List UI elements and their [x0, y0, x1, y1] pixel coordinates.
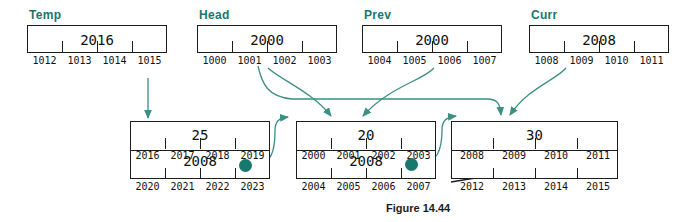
tick-mark [366, 168, 367, 179]
tick-mark [235, 138, 236, 149]
address-label: 2023 [235, 181, 270, 192]
address-label: 2016 [130, 150, 165, 161]
address-label: 1008 [529, 55, 564, 66]
pointer-var-label-head: Head [199, 8, 230, 22]
address-label: 1015 [132, 55, 167, 66]
tick-mark [165, 168, 166, 179]
diagram-content-layer: Temp 2016 1012 1013 1014 1015 Head 2000 … [0, 0, 696, 222]
tick-mark [200, 138, 201, 149]
address-label: 1012 [27, 55, 62, 66]
address-label: 2019 [235, 150, 270, 161]
address-label: 2002 [366, 150, 401, 161]
tick-mark [397, 41, 398, 53]
address-label: 1014 [97, 55, 132, 66]
address-label: 2007 [401, 181, 436, 192]
tick-mark [401, 168, 402, 179]
tick-mark [366, 138, 367, 149]
tick-mark [62, 41, 63, 53]
tick-mark [535, 168, 536, 179]
address-label: 2005 [331, 181, 366, 192]
tick-mark [577, 138, 578, 149]
tick-mark [493, 168, 494, 179]
address-label: 1010 [599, 55, 634, 66]
address-label: 2006 [366, 181, 401, 192]
pointer-var-label-curr: Curr [531, 8, 558, 22]
pointer-var-label-temp: Temp [29, 8, 61, 22]
tick-mark [132, 41, 133, 53]
address-label: 1003 [302, 55, 337, 66]
address-label: 1007 [467, 55, 502, 66]
address-label: 2011 [577, 150, 619, 161]
address-label: 2004 [296, 181, 331, 192]
address-label: 2018 [200, 150, 235, 161]
address-label: 2012 [451, 181, 493, 192]
address-label: 2020 [130, 181, 165, 192]
address-label: 1000 [197, 55, 232, 66]
tick-mark [493, 138, 494, 149]
tick-mark [267, 41, 268, 53]
address-label: 2022 [200, 181, 235, 192]
tick-mark [232, 41, 233, 53]
address-label: 2001 [331, 150, 366, 161]
address-label: 1004 [362, 55, 397, 66]
address-label: 2008 [451, 150, 493, 161]
address-label: 2014 [535, 181, 577, 192]
address-label: 1005 [397, 55, 432, 66]
address-label: 1013 [62, 55, 97, 66]
address-label: 2009 [493, 150, 535, 161]
tick-mark [599, 41, 600, 53]
address-label: 2021 [165, 181, 200, 192]
tick-mark [235, 168, 236, 179]
tick-mark [535, 138, 536, 149]
address-label: 2017 [165, 150, 200, 161]
address-label: 2000 [296, 150, 331, 161]
address-label: 2013 [493, 181, 535, 192]
pointer-dot [405, 158, 418, 171]
address-label: 1001 [232, 55, 267, 66]
figure-caption: Figure 14.44 [386, 202, 450, 214]
tick-mark [302, 41, 303, 53]
address-label: 1002 [267, 55, 302, 66]
tick-mark [564, 41, 565, 53]
tick-mark [331, 138, 332, 149]
tick-mark [634, 41, 635, 53]
tick-mark [97, 41, 98, 53]
tick-mark [401, 138, 402, 149]
address-label: 1009 [564, 55, 599, 66]
tick-mark [432, 41, 433, 53]
figure-14-44-diagram: Temp 2016 1012 1013 1014 1015 Head 2000 … [0, 0, 696, 222]
tick-mark [577, 168, 578, 179]
tick-mark [200, 168, 201, 179]
tick-mark [165, 138, 166, 149]
pointer-dot [239, 159, 252, 172]
address-label: 1011 [634, 55, 669, 66]
pointer-var-label-prev: Prev [364, 8, 391, 22]
address-label: 2010 [535, 150, 577, 161]
tick-mark [331, 168, 332, 179]
address-label: 1006 [432, 55, 467, 66]
tick-mark [467, 41, 468, 53]
address-label: 2015 [577, 181, 619, 192]
